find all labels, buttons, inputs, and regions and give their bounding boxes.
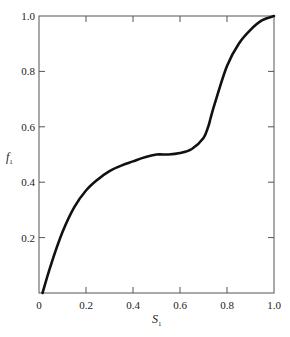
tick-labels: 00.20.40.60.81.00.20.40.60.81.0 xyxy=(21,10,281,311)
tick-label: 1.0 xyxy=(21,10,35,22)
tick-label: 0 xyxy=(36,299,42,311)
tick-label: 0.4 xyxy=(21,176,35,188)
data-line xyxy=(43,16,275,293)
tick-label: 0.8 xyxy=(21,65,35,77)
tick-label: 0.8 xyxy=(220,299,234,311)
tick-label: 0.6 xyxy=(173,299,187,311)
tick-label: 0.4 xyxy=(126,299,140,311)
y-axis-label: f1 xyxy=(6,150,13,166)
tick-label: 1.0 xyxy=(267,299,281,311)
tick-label: 0.2 xyxy=(79,299,93,311)
tick-label: 0.6 xyxy=(21,121,35,133)
line-chart: 00.20.40.60.81.00.20.40.60.81.0 f1 S1 xyxy=(0,0,290,337)
x-axis-label: S1 xyxy=(152,312,162,328)
tick-label: 0.2 xyxy=(21,232,35,244)
